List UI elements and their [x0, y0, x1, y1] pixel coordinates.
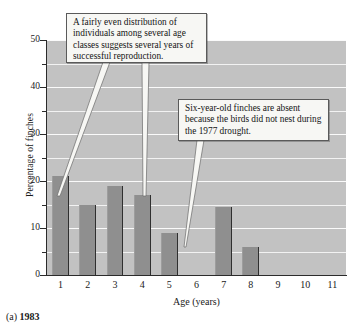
caption-prefix: (a): [6, 311, 17, 322]
x-tick-label-7: 7: [212, 279, 236, 290]
y-tick-minor-25: [42, 158, 46, 159]
x-axis-line: [46, 275, 347, 276]
x-tick-label-9: 9: [266, 279, 290, 290]
bar-age-8: [242, 247, 259, 275]
y-tick-minor-35: [42, 111, 46, 112]
y-tick-0: [40, 275, 46, 276]
y-tick-label-50: 50: [14, 35, 40, 45]
bar-age-4: [134, 195, 151, 275]
y-tick-minor-5: [42, 252, 46, 253]
gridline-25: [47, 158, 346, 159]
y-tick-50: [40, 40, 46, 41]
callout-even-distribution: A fairly even distribution of individual…: [66, 13, 207, 63]
x-tick-label-10: 10: [293, 279, 317, 290]
bar-age-5: [161, 233, 178, 275]
gridline-45: [47, 64, 346, 65]
gridline-40: [47, 87, 346, 88]
figure-1983-finch-age-distribution: 01020304050 1234567891011 Percentage of …: [0, 0, 353, 334]
y-axis-line: [46, 40, 47, 276]
bar-age-1: [52, 176, 69, 275]
x-tick-label-11: 11: [320, 279, 344, 290]
x-tick-label-6: 6: [185, 279, 209, 290]
y-tick-10: [40, 228, 46, 229]
y-tick-40: [40, 87, 46, 88]
x-tick-label-3: 3: [103, 279, 127, 290]
bar-age-3: [107, 186, 124, 275]
y-tick-20: [40, 181, 46, 182]
gridline-20: [47, 181, 346, 182]
x-tick-label-1: 1: [49, 279, 73, 290]
caption-year: 1983: [20, 311, 40, 322]
x-axis-title: Age (years): [47, 296, 346, 307]
y-tick-minor-15: [42, 205, 46, 206]
x-tick-label-5: 5: [157, 279, 181, 290]
x-tick-label-2: 2: [76, 279, 100, 290]
x-tick-label-4: 4: [130, 279, 154, 290]
figure-caption: (a) 1983: [6, 311, 40, 322]
y-tick-minor-45: [42, 64, 46, 65]
callout-six-year-old-absent: Six-year-old finches are absent because …: [178, 99, 329, 141]
x-tick-label-8: 8: [239, 279, 263, 290]
y-tick-label-0: 0: [14, 270, 40, 280]
y-axis-title: Percentage of finches: [25, 75, 35, 235]
bar-age-7: [215, 207, 232, 275]
bar-age-2: [79, 205, 96, 276]
y-tick-30: [40, 134, 46, 135]
